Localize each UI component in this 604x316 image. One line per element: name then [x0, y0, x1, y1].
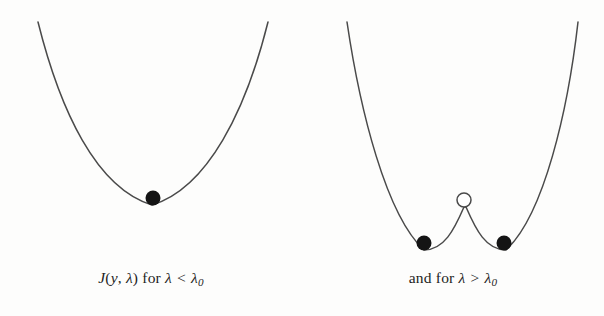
caption-relation-less-than: < [172, 269, 191, 286]
right-potential-plot [302, 0, 604, 265]
left-potential-plot [0, 0, 302, 265]
right-panel-caption: and for λ > λ0 [302, 268, 604, 292]
bifurcation-potential-figure: J(y, λ) for λ < λ0 and for λ > λ0 [0, 0, 604, 316]
left-panel-caption: J(y, λ) for λ < λ0 [0, 268, 302, 292]
caption-arg-lambda: λ [126, 269, 133, 286]
caption-arg-y: y [111, 269, 118, 286]
caption-connector: and for [409, 269, 459, 286]
caption-lambda-lhs: λ [165, 269, 172, 286]
stable-minimum-marker [146, 191, 161, 206]
caption-lambda-rhs-subscript: 0 [491, 276, 497, 288]
panel-right: and for λ > λ0 [302, 0, 604, 316]
caption-lambda-rhs: λ [191, 269, 198, 286]
caption-lambda-rhs-subscript: 0 [198, 276, 204, 288]
caption-connector: for [138, 269, 165, 286]
right-potential-curve [347, 22, 578, 250]
caption-comma: , [118, 269, 126, 286]
caption-relation-greater-than: > [465, 269, 484, 286]
right-well-minimum-marker [497, 236, 512, 251]
panel-left: J(y, λ) for λ < λ0 [0, 0, 302, 316]
left-well-minimum-marker [417, 236, 432, 251]
barrier-maximum-marker [457, 193, 471, 207]
left-potential-curve [38, 22, 268, 205]
